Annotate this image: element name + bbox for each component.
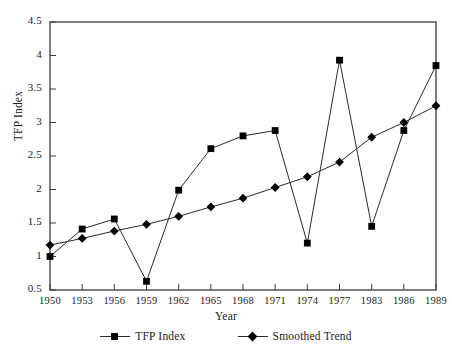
plot-frame (50, 22, 436, 290)
y-axis-tick-label: 2 (8, 182, 42, 194)
y-axis-tick-label: 2.5 (8, 148, 42, 160)
diamond-marker-icon (238, 331, 268, 341)
data-point-square (79, 226, 86, 233)
square-marker-icon (100, 331, 130, 341)
data-point-square (304, 240, 311, 247)
data-point-square (400, 127, 407, 134)
y-axis-tick-label: 4 (8, 48, 42, 60)
data-point-square (272, 127, 279, 134)
data-point-square (368, 223, 375, 230)
data-point-square (240, 133, 247, 140)
y-axis-tick-label: 3 (8, 115, 42, 127)
y-axis-tick-label: 3.5 (8, 81, 42, 93)
y-axis-tick-label: 0.5 (8, 282, 42, 294)
data-point-square (433, 62, 440, 69)
y-axis-tick-label: 4.5 (8, 14, 42, 26)
chart-legend: TFP Index Smoothed Trend (0, 330, 452, 342)
data-point-square (143, 278, 150, 285)
y-axis-tick-label: 1.5 (8, 215, 42, 227)
data-point-square (207, 145, 214, 152)
x-axis-title: Year (0, 310, 452, 322)
y-axis-tick-label: 1 (8, 249, 42, 261)
data-point-square (111, 216, 118, 223)
legend-label-smoothed-trend: Smoothed Trend (273, 330, 352, 342)
legend-label-tfp-index: TFP Index (135, 330, 185, 342)
legend-entry-tfp-index: TFP Index (100, 330, 185, 342)
data-point-square (175, 187, 182, 194)
data-point-square (336, 57, 343, 64)
x-axis-tick-label: 1989 (416, 295, 452, 306)
chart-figure: TFP Index Year 0.511.522.533.544.5 19501… (0, 0, 452, 353)
data-point-square (47, 253, 54, 260)
legend-entry-smoothed-trend: Smoothed Trend (238, 330, 352, 342)
